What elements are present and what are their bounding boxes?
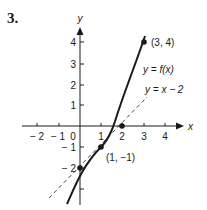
label-line: y = x − 2 [144, 84, 184, 95]
y-axis-arrow-icon [77, 27, 84, 35]
x-tick-label: 0 [70, 131, 76, 142]
point-2-0 [119, 123, 125, 129]
y-axis-label: y [77, 13, 84, 24]
point-0-neg2 [77, 165, 83, 171]
label-point-3-4: (3, 4) [151, 37, 174, 48]
x-tick-label: 2 [119, 131, 125, 142]
curve-f-of-x [67, 36, 145, 204]
x-tick-label: 4 [162, 131, 168, 142]
x-axis-label: x [187, 121, 194, 132]
x-tick-label: 1 [98, 131, 104, 142]
y-tick-label: − 1 [62, 142, 77, 153]
y-tick-label: 2 [70, 80, 76, 91]
x-tick-label: − 2 [30, 131, 45, 142]
point-3-4 [141, 39, 147, 45]
y-tick-label: 3 [70, 59, 76, 70]
label-curve: y = f(x) [142, 64, 174, 75]
x-tick-label: − 1 [51, 131, 66, 142]
y-tick-label: 1 [70, 100, 76, 111]
y-tick-label: 4 [70, 37, 76, 48]
graph: − 2 − 1 0 1 2 3 4 − 2 − 1 1 2 3 4 y x (3… [0, 0, 207, 210]
x-tick-label: 3 [141, 131, 147, 142]
point-1-neg1 [98, 144, 104, 150]
x-axis-arrow-icon [176, 123, 184, 130]
label-point-1-neg1: (1, −1) [106, 152, 135, 163]
